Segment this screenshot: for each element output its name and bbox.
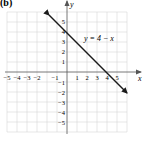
svg-text:−5: −5 <box>4 74 11 81</box>
svg-text:−2: −2 <box>58 89 65 96</box>
svg-text:1: 1 <box>75 74 78 81</box>
svg-text:3: 3 <box>62 38 65 45</box>
svg-text:−1: −1 <box>58 79 65 86</box>
panel-label: (b) <box>0 0 12 9</box>
svg-text:5: 5 <box>62 18 65 25</box>
graph: (b) y x y = 4 − x −5 −4 −3 −2 −1 1 2 3 4… <box>0 0 145 141</box>
svg-text:−2: −2 <box>34 74 41 81</box>
svg-text:−5: −5 <box>58 119 65 126</box>
svg-text:−4: −4 <box>14 74 22 81</box>
equation-label: y = 4 − x <box>83 34 114 43</box>
svg-text:5: 5 <box>115 74 118 81</box>
svg-text:2: 2 <box>85 74 88 81</box>
svg-text:−4: −4 <box>58 109 66 116</box>
svg-text:−3: −3 <box>24 74 31 81</box>
svg-text:2: 2 <box>62 48 65 55</box>
y-axis-label: y <box>69 0 74 9</box>
x-axis-label: x <box>137 74 142 83</box>
svg-text:1: 1 <box>62 58 65 65</box>
svg-text:−3: −3 <box>58 99 65 106</box>
svg-text:3: 3 <box>95 74 98 81</box>
